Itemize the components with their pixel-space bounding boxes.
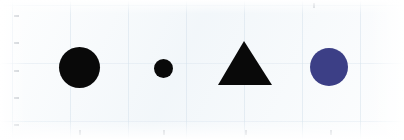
tick-bottom-2	[163, 130, 165, 135]
tick-bottom-4	[330, 130, 332, 135]
tick-left-3	[14, 70, 19, 72]
tick-left-4	[14, 97, 19, 99]
tick-left-2	[14, 42, 19, 44]
small-black-circle	[154, 59, 173, 78]
large-black-circle	[59, 47, 100, 88]
tick-top-1	[313, 3, 315, 8]
tick-left-1	[14, 15, 19, 17]
tick-bottom-1	[79, 130, 81, 135]
tick-left-5	[14, 124, 19, 126]
tick-bottom-3	[245, 130, 247, 135]
indigo-circle	[310, 48, 348, 86]
shape-scene	[0, 0, 404, 140]
black-triangle	[216, 39, 274, 87]
